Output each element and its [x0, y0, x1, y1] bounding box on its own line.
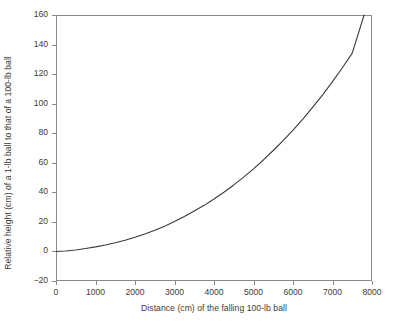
y-tick-mark	[52, 163, 56, 164]
x-tick-mark	[135, 281, 136, 285]
x-axis-title: Distance (cm) of the falling 100-lb ball	[56, 303, 372, 313]
series-line-relative-height	[56, 15, 364, 251]
chart-figure: Relative height (cm) of a 1-lb ball to t…	[0, 0, 400, 326]
y-tick-label: 120	[8, 68, 48, 78]
y-tick-label: 140	[8, 39, 48, 49]
data-curve-layer	[56, 15, 372, 281]
x-tick-mark	[56, 281, 57, 285]
y-tick-mark	[52, 45, 56, 46]
y-tick-label: 0	[8, 245, 48, 255]
y-tick-mark	[52, 74, 56, 75]
y-tick-label: 80	[8, 127, 48, 137]
x-tick-mark	[96, 281, 97, 285]
y-tick-mark	[52, 222, 56, 223]
x-tick-mark	[214, 281, 215, 285]
y-tick-label: 100	[8, 98, 48, 108]
y-tick-label: 20	[8, 216, 48, 226]
x-tick-mark	[175, 281, 176, 285]
x-tick-label: 8000	[347, 287, 397, 297]
x-tick-mark	[293, 281, 294, 285]
y-tick-label: 40	[8, 186, 48, 196]
y-tick-mark	[52, 251, 56, 252]
x-tick-mark	[254, 281, 255, 285]
y-tick-mark	[52, 104, 56, 105]
x-tick-mark	[333, 281, 334, 285]
y-tick-label: 60	[8, 157, 48, 167]
y-tick-mark	[52, 15, 56, 16]
y-tick-label: −20	[8, 275, 48, 285]
y-tick-label: 160	[8, 9, 48, 19]
y-tick-mark	[52, 192, 56, 193]
y-tick-mark	[52, 133, 56, 134]
x-tick-mark	[372, 281, 373, 285]
